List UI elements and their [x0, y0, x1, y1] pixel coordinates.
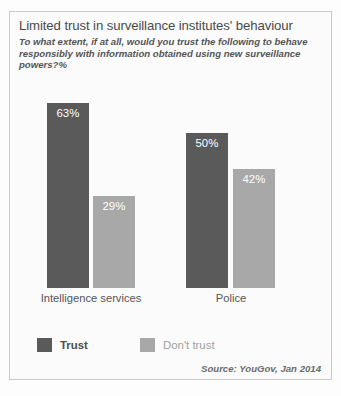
- legend-swatch-trust: [37, 338, 52, 352]
- chart-source: Source: YouGov, Jan 2014: [201, 363, 321, 374]
- bar-intelligence-dont-trust: 29%: [93, 196, 135, 288]
- legend-swatch-dont-trust: [140, 338, 155, 352]
- plot-area: 63% 29% 50% 42% Intelligence services Po…: [0, 0, 341, 396]
- bar-value-label: 50%: [186, 137, 228, 149]
- legend-label-trust: Trust: [60, 339, 88, 351]
- chart-figure: Limited trust in surveillance institutes…: [0, 0, 341, 396]
- legend-label-dont-trust: Don't trust: [163, 339, 215, 351]
- bar-police-dont-trust: 42%: [233, 169, 275, 288]
- bar-intelligence-trust: 63%: [47, 103, 89, 288]
- legend-item-dont-trust: Don't trust: [140, 338, 215, 352]
- bar-value-label: 29%: [93, 200, 135, 212]
- category-label-police: Police: [191, 292, 271, 304]
- bar-value-label: 42%: [233, 173, 275, 185]
- category-label-intelligence-services: Intelligence services: [31, 292, 151, 304]
- legend-item-trust: Trust: [37, 338, 88, 352]
- bar-value-label: 63%: [47, 107, 89, 119]
- bar-police-trust: 50%: [186, 133, 228, 288]
